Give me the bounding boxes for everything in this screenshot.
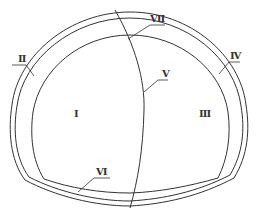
label-III: Ⅲ — [199, 108, 211, 119]
leader-VI — [78, 178, 110, 192]
label-V: Ⅴ — [161, 68, 170, 79]
label-VII: Ⅶ — [149, 13, 165, 24]
tunnel-section-diagram: Ⅱ Ⅰ Ⅲ Ⅳ Ⅴ Ⅵ Ⅶ — [0, 0, 257, 217]
label-VI: Ⅵ — [95, 166, 108, 177]
label-I: Ⅰ — [74, 108, 79, 119]
label-II: Ⅱ — [18, 53, 26, 64]
label-IV: Ⅳ — [230, 50, 242, 61]
leader-V — [144, 80, 168, 92]
dividing-curve — [115, 10, 144, 208]
outer-lining-contour — [10, 12, 248, 206]
leader-VII — [128, 25, 165, 39]
